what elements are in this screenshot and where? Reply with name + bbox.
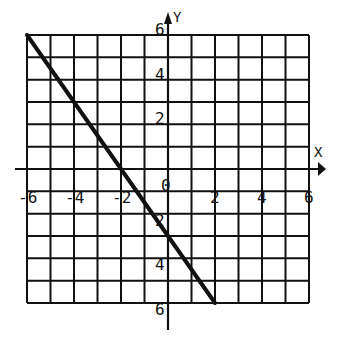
- x-tick-label: 6: [304, 188, 314, 207]
- y-tick-label: 4: [155, 255, 165, 274]
- y-axis-title: Y: [173, 9, 182, 25]
- y-tick-label: 6: [155, 300, 165, 319]
- x-tick-label: -6: [18, 188, 37, 207]
- x-tick-label: 2: [210, 188, 220, 207]
- y-tick-label: 6: [155, 20, 165, 39]
- x-axis-title: X: [314, 144, 323, 160]
- x-tick-label: -2: [112, 188, 131, 207]
- y-tick-label: 2: [155, 109, 165, 128]
- coordinate-plane: XY-6-4-20246642246: [0, 0, 338, 354]
- y-axis-arrow-icon: [164, 12, 172, 24]
- x-tick-label: -4: [65, 188, 84, 207]
- x-axis-arrow-icon: [318, 162, 326, 176]
- x-tick-label: 4: [257, 188, 267, 207]
- x-tick-label: 0: [161, 176, 171, 195]
- y-tick-label: 4: [155, 65, 165, 84]
